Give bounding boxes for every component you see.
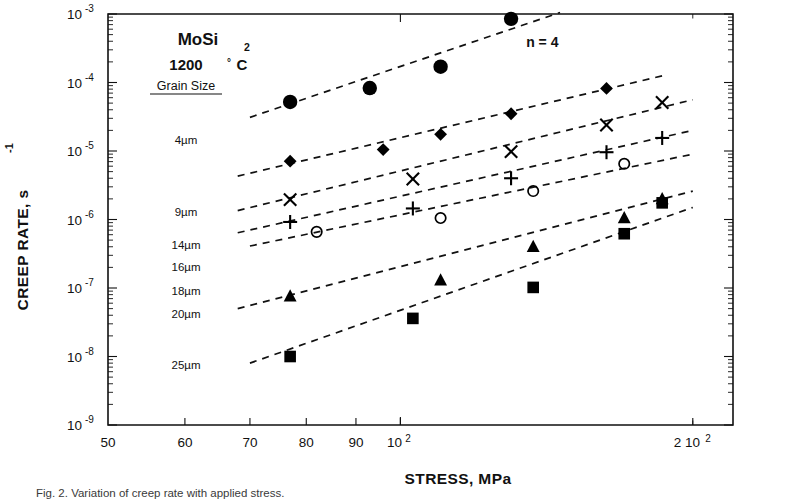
x-tick-label: 70 [242,435,257,450]
data-point-14µm [656,96,668,108]
y-tick-label-exponent: -8 [85,346,94,357]
y-tick-label: 10-4 [67,72,94,91]
filled-triangle-icon [434,273,447,285]
fit-line-14µm [238,100,693,211]
data-point-9µm [600,82,613,95]
data-point-20µm [618,211,631,223]
legend-compound: MoSi [178,30,219,49]
y-tick-label-text: 10 [67,350,82,365]
y-tick-label: 10-7 [67,277,94,296]
y-tick-label-text: 10 [67,418,82,433]
data-point-20µm [527,240,540,252]
legend-compound-subscript: 2 [244,41,250,53]
data-point-16µm [655,131,669,145]
filled-triangle-icon [527,240,540,252]
y-axis-title: CREEP RATE, s -1 [3,143,31,310]
x-tick-label-text: 60 [177,435,192,450]
x-axis-title: STRESS, MPa [405,470,512,487]
y-tick-label-text: 10 [67,144,82,159]
annotations: n = 4 [526,34,559,50]
data-point-20µm [284,289,297,301]
filled-diamond-icon [600,82,613,95]
data-point-25µm [656,197,668,209]
legend-item-9µm: 9µm [175,206,198,218]
y-tick-label: 10-3 [67,3,94,22]
filled-diamond-icon [284,155,297,168]
filled-square-icon [618,228,630,240]
y-tick-label: 10-8 [67,346,94,365]
legend-item-25µm: 25µm [172,359,201,371]
figure-container: 50607080901022 102 10-310-410-510-610-71… [0,0,786,499]
creep-rate-vs-stress-chart: 50607080901022 102 10-310-410-510-610-71… [0,0,786,499]
y-tick-label-exponent: -6 [85,209,94,220]
legend-temperature-unit: C [237,56,248,73]
y-axis-title-exponent: -1 [3,143,15,153]
filled-square-icon [656,197,668,209]
y-tick-label-text: 10 [67,281,82,296]
data-point-16µm [283,215,297,229]
x-tick-label-text: 2 10 [674,435,700,450]
y-tick-label: 10-6 [67,209,94,228]
x-tick-label: 60 [177,435,192,450]
y-axis-ticks [108,14,733,425]
x-tick-label-text: 80 [299,435,314,450]
open-circle-icon [619,159,629,169]
y-tick-label-exponent: -3 [85,3,94,14]
y-tick-label-exponent: -9 [85,414,94,425]
filled-diamond-icon [434,128,447,141]
data-point-25µm [407,313,419,325]
data-point-18µm [619,159,629,169]
filled-square-icon [407,313,419,325]
x-tick-label-text: 50 [100,435,115,450]
legend-item-18µm: 18µm [172,285,201,297]
figure-caption: Fig. 2. Variation of creep rate with app… [36,487,284,499]
filled-circle-icon [433,60,447,74]
data-point-20µm [434,273,447,285]
legend-item-14µm: 14µm [172,239,201,251]
y-tick-label: 10-9 [67,414,94,433]
x-tick-label: 50 [100,435,115,450]
data-point-14µm [505,145,517,157]
plot-frame [108,14,733,425]
filled-triangle-icon [284,289,297,301]
x-tick-label: 102 [387,433,411,450]
data-point-9µm [284,155,297,168]
data-point-25µm [284,351,296,363]
data-point-4µm [283,95,297,109]
fit-line-9µm [238,76,662,176]
legend-item-16µm: 16µm [172,261,201,273]
y-tick-label-exponent: -4 [85,72,94,83]
y-tick-label-text: 10 [67,76,82,91]
x-axis-tick-labels: 50607080901022 102 [100,433,711,450]
filled-diamond-icon [377,143,390,156]
filled-circle-icon [363,81,377,95]
stress-exponent: n = 4 [526,34,559,50]
x-tick-label-text: 10 [387,435,402,450]
data-point-4µm [504,12,518,26]
filled-circle-icon [504,12,518,26]
filled-circle-icon [283,95,297,109]
x-tick-label: 2 102 [674,433,712,450]
data-markers [283,12,669,363]
data-point-4µm [363,81,377,95]
filled-triangle-icon [618,211,631,223]
x-tick-label-text: 90 [348,435,363,450]
y-tick-label-exponent: -7 [85,277,94,288]
data-point-4µm [433,60,447,74]
data-point-16µm [504,171,518,185]
data-point-9µm [377,143,390,156]
legend-header: Grain Size [157,79,215,93]
x-tick-label: 80 [299,435,314,450]
y-tick-label-text: 10 [67,213,82,228]
open-circle-icon [435,213,445,223]
x-tick-label-exponent: 2 [705,433,711,444]
data-point-25µm [527,282,539,294]
data-point-25µm [618,228,630,240]
fit-lines [238,13,693,364]
data-point-14µm [407,173,419,185]
data-point-14µm [284,193,296,205]
x-axis-ticks [185,14,693,425]
legend-item-4µm: 4µm [175,134,198,146]
x-tick-label: 90 [348,435,363,450]
filled-square-icon [527,282,539,294]
